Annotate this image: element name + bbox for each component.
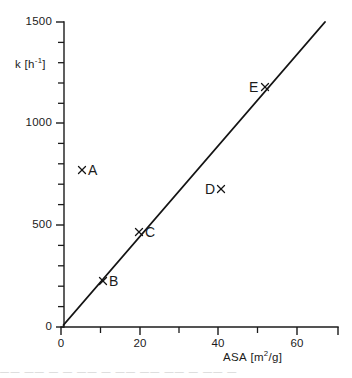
x-axis-title-symbol: ASA [223, 351, 247, 363]
x-tick-label-0: 0 [53, 337, 69, 349]
y-axis-major-ticks [56, 22, 64, 327]
data-point-marker-a [79, 167, 86, 174]
x-tick-label-40: 40 [207, 337, 229, 349]
y-axis-title-units-open: [h [25, 58, 35, 70]
plot-canvas [0, 0, 352, 378]
data-point-marker-d [218, 186, 225, 193]
data-point-label-a: A [88, 163, 97, 177]
y-axis-minor-ticks [58, 42, 64, 306]
y-tick-label-1000: 1000 [16, 116, 52, 128]
x-tick-label-60: 60 [286, 337, 308, 349]
y-axis-title-units-close: ] [42, 58, 46, 70]
chart-figure: 1500 1000 500 0 0 20 40 60 k [h-1] ASA [… [0, 0, 352, 378]
trend-line [64, 22, 326, 325]
data-point-label-e: E [249, 80, 258, 94]
y-tick-label-0: 0 [16, 320, 52, 332]
x-axis-major-ticks [61, 327, 338, 335]
x-tick-label-20: 20 [129, 337, 151, 349]
data-point-marker-e [262, 84, 269, 91]
x-axis-title-units-open: [m [250, 351, 263, 363]
caption-partial: —— —— — — —— — —— —— —— — —— — [0, 366, 352, 376]
data-point-label-d: D [205, 182, 215, 196]
x-axis-minor-ticks [101, 327, 258, 333]
x-axis-title: ASA [m2/g] [223, 351, 282, 363]
y-tick-label-500: 500 [16, 218, 52, 230]
y-tick-label-1500: 1500 [16, 15, 52, 27]
data-point-label-b: B [109, 274, 118, 288]
x-axis-title-units-close: /g] [268, 351, 282, 363]
y-axis-title: k [h-1] [15, 58, 46, 70]
data-point-marker-c [136, 229, 143, 236]
data-point-label-c: C [145, 225, 155, 239]
